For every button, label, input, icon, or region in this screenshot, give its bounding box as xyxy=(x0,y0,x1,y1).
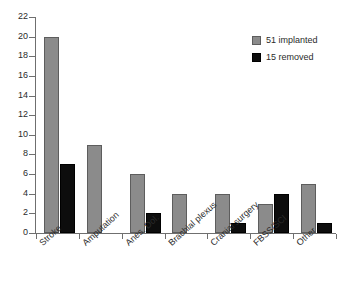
y-tick xyxy=(29,233,35,234)
legend: 51 implanted 15 removed xyxy=(252,33,318,67)
y-tick-label: 4 xyxy=(2,189,28,198)
y-axis-labels: 0246810121416182022 xyxy=(0,0,28,296)
y-tick xyxy=(29,174,35,175)
y-tick xyxy=(29,154,35,155)
x-tick xyxy=(122,234,123,239)
bar-group xyxy=(122,17,165,233)
bar xyxy=(317,223,332,233)
legend-label-implanted: 51 implanted xyxy=(266,36,318,45)
y-tick xyxy=(29,37,35,38)
bar xyxy=(60,164,75,233)
x-tick xyxy=(36,234,37,239)
y-tick xyxy=(29,213,35,214)
y-tick xyxy=(29,194,35,195)
x-tick xyxy=(336,234,337,239)
legend-swatch-removed xyxy=(252,53,261,62)
x-tick xyxy=(165,234,166,239)
y-tick xyxy=(29,56,35,57)
y-tick-label: 10 xyxy=(2,130,28,139)
legend-item: 15 removed xyxy=(252,50,318,64)
y-tick-label: 8 xyxy=(2,149,28,158)
y-tick xyxy=(29,115,35,116)
y-tick-label: 6 xyxy=(2,169,28,178)
bar-group xyxy=(207,17,250,233)
y-tick xyxy=(29,96,35,97)
x-tick xyxy=(79,234,80,239)
y-tick-label: 22 xyxy=(2,12,28,21)
legend-label-removed: 15 removed xyxy=(266,53,314,62)
y-tick xyxy=(29,76,35,77)
bar-chart: 0246810121416182022 StrokeAmputationAnes… xyxy=(0,0,348,296)
bar-group xyxy=(165,17,208,233)
x-tick xyxy=(207,234,208,239)
bar xyxy=(87,145,102,233)
y-tick-label: 18 xyxy=(2,51,28,60)
x-tick xyxy=(293,234,294,239)
y-tick-label: 12 xyxy=(2,110,28,119)
y-tick-label: 20 xyxy=(2,32,28,41)
y-tick-label: 14 xyxy=(2,91,28,100)
y-tick-label: 0 xyxy=(2,228,28,237)
bar-group xyxy=(36,17,79,233)
y-tick-label: 16 xyxy=(2,71,28,80)
legend-item: 51 implanted xyxy=(252,33,318,47)
legend-swatch-implanted xyxy=(252,36,261,45)
y-tick xyxy=(29,17,35,18)
bar xyxy=(44,37,59,233)
y-tick-label: 2 xyxy=(2,208,28,217)
x-tick xyxy=(250,234,251,239)
y-tick xyxy=(29,135,35,136)
bar-group xyxy=(79,17,122,233)
